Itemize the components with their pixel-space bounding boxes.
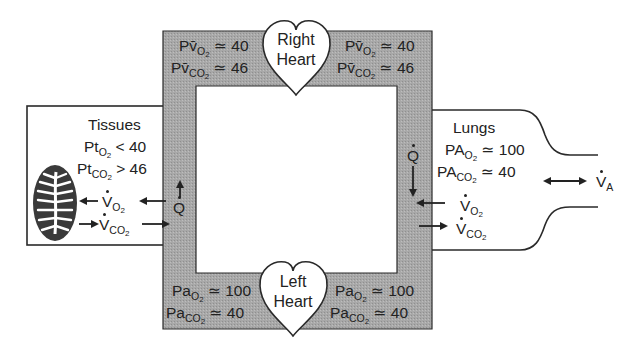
right-heart-right-pvco2: Pv̄CO2 ≃ 46	[337, 60, 414, 81]
mitochondrion-icon	[33, 165, 77, 241]
right-heart-label: Right Heart	[261, 30, 331, 70]
right-heart-line1: Right	[261, 30, 331, 50]
tissues-vco2: VCO2	[99, 217, 130, 238]
right-heart-left-pvco2: Pv̄CO2 ≃ 46	[171, 60, 248, 81]
tissues-vo2: VO2	[102, 194, 125, 215]
lungs-vco2: VCO2	[456, 221, 487, 242]
left-heart-right-paco2: PaCO2 ≃ 40	[330, 305, 408, 326]
right-heart-line2: Heart	[261, 50, 331, 70]
lungs-title: Lungs	[453, 120, 495, 136]
lungs-paco2: PACO2 ≃ 40	[437, 164, 516, 185]
left-heart-left-paco2: PaCO2 ≃ 40	[166, 305, 244, 326]
tissues-title: Tissues	[88, 117, 141, 133]
left-heart-line2: Heart	[258, 292, 328, 312]
left-heart-left-pao2: PaO2 ≃ 100	[172, 283, 251, 304]
lungs-vo2: VO2	[460, 198, 483, 219]
right-heart-right-pvo2: Pv̄O2 ≃ 40	[345, 38, 415, 59]
left-heart-right-pao2: PaO2 ≃ 100	[335, 283, 414, 304]
tissues-flow-label: Q	[173, 200, 185, 216]
left-heart-line1: Left	[258, 272, 328, 292]
right-heart-left-pvo2: Pv̄O2 ≃ 40	[179, 38, 249, 59]
lungs-ventilation: VA	[596, 174, 613, 193]
tissues-pto2: PtO2 < 40	[84, 139, 146, 160]
tissues-ptco2: PtCO2 > 46	[77, 161, 147, 182]
left-heart-label: Left Heart	[258, 272, 328, 312]
lungs-flow-label: Q	[407, 148, 419, 164]
lungs-pao2: PAO2 ≃ 100	[445, 142, 525, 163]
